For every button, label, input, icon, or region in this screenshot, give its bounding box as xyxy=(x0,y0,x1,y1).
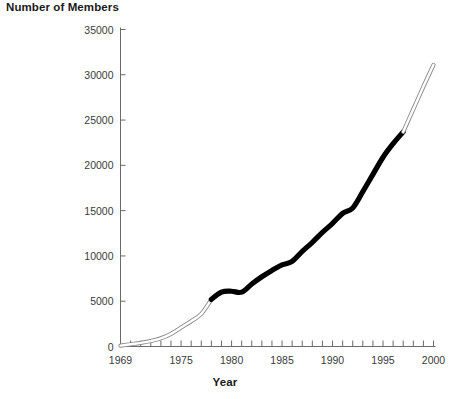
line-chart-plot: 05000100001500020000250003000035000 1969… xyxy=(0,0,450,399)
chart-series-layer xyxy=(121,65,434,346)
y-tick-label: 15000 xyxy=(84,205,113,217)
y-axis-tick-labels: 05000100001500020000250003000035000 xyxy=(84,24,113,353)
chart-tick-marks xyxy=(121,30,434,347)
y-tick-label: 10000 xyxy=(84,250,113,262)
y-tick-label: 20000 xyxy=(84,159,113,171)
series-line-actual xyxy=(211,132,403,300)
series-line-fill-0 xyxy=(121,299,212,345)
x-axis-tick-labels: 1969197519801985199019952000 xyxy=(109,354,446,366)
chart-axes xyxy=(121,28,436,347)
y-tick-label: 35000 xyxy=(84,24,113,36)
x-tick-label: 1995 xyxy=(371,354,395,366)
x-tick-label: 1969 xyxy=(109,354,133,366)
x-tick-label: 1990 xyxy=(321,354,345,366)
y-tick-label: 25000 xyxy=(84,114,113,126)
y-tick-label: 30000 xyxy=(84,69,113,81)
series-line-fill-2 xyxy=(403,65,433,132)
y-tick-label: 0 xyxy=(108,341,114,353)
x-tick-label: 1975 xyxy=(169,354,193,366)
x-tick-label: 1980 xyxy=(220,354,244,366)
series-line-outline-0 xyxy=(121,299,212,345)
x-axis-title: Year xyxy=(0,376,450,388)
x-tick-label: 2000 xyxy=(422,354,446,366)
chart-container: Number of Members 0500010000150002000025… xyxy=(0,0,450,399)
x-tick-label: 1985 xyxy=(270,354,294,366)
y-tick-label: 5000 xyxy=(90,295,114,307)
